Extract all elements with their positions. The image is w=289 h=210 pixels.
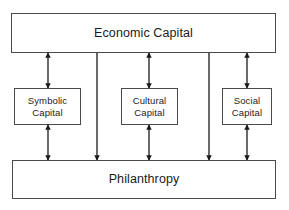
node-economic-capital-label: Economic Capital (94, 26, 193, 41)
node-philanthropy-label: Philanthropy (109, 172, 180, 187)
node-cultural-capital-label: Cultural Capital (133, 95, 167, 117)
node-social-capital-label: Social Capital (232, 95, 262, 117)
node-philanthropy: Philanthropy (12, 160, 276, 199)
node-cultural-capital: Cultural Capital (121, 88, 178, 125)
node-economic-capital: Economic Capital (11, 13, 276, 53)
node-symbolic-capital-label: Symbolic Capital (28, 95, 67, 117)
node-symbolic-capital: Symbolic Capital (14, 88, 81, 125)
diagram-canvas: Economic Capital Symbolic Capital Cultur… (0, 0, 289, 210)
node-social-capital: Social Capital (222, 88, 272, 125)
